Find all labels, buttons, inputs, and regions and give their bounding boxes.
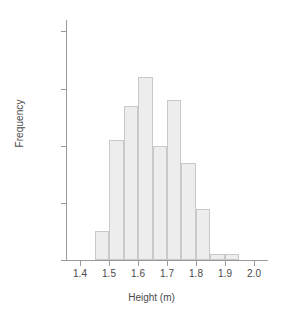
x-axis-title: Height (m) — [0, 292, 303, 303]
y-axis-line — [66, 20, 67, 261]
histogram-bar — [153, 146, 167, 260]
histogram-bar — [95, 231, 109, 260]
x-tick-mark — [225, 261, 226, 266]
histogram-bar — [210, 254, 224, 260]
y-tick-mark — [61, 203, 66, 204]
histogram-bar — [138, 77, 152, 260]
x-tick-label: 2.0 — [234, 269, 274, 279]
histogram-bar — [196, 209, 210, 260]
x-tick-mark — [80, 261, 81, 266]
histogram-bar — [225, 254, 239, 260]
histogram-bar — [181, 163, 195, 260]
y-axis-title: Frequency — [14, 69, 25, 179]
plot-area: 010203040 1.41.51.61.71.81.92.0 — [66, 20, 262, 260]
y-tick-mark — [61, 89, 66, 90]
x-tick-mark — [167, 261, 168, 266]
x-tick-mark — [138, 261, 139, 266]
y-tick-mark — [61, 260, 66, 261]
histogram-bar — [109, 140, 123, 260]
x-tick-mark — [254, 261, 255, 266]
y-tick-mark — [61, 31, 66, 32]
x-tick-mark — [109, 261, 110, 266]
histogram-bar — [167, 100, 181, 260]
histogram-figure: Frequency Height (m) 010203040 1.41.51.6… — [0, 0, 303, 318]
histogram-bar — [124, 106, 138, 260]
x-tick-mark — [196, 261, 197, 266]
y-tick-mark — [61, 146, 66, 147]
